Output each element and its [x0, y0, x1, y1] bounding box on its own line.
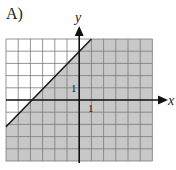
x-tick-label: 1	[88, 102, 94, 114]
x-axis-arrow-icon	[158, 96, 168, 105]
y-axis-arrow-icon	[75, 26, 84, 36]
inequality-graph: x y 1 1	[0, 0, 176, 170]
x-axis-label: x	[167, 93, 175, 108]
y-axis-label: y	[73, 10, 82, 25]
y-tick-label: 1	[71, 82, 77, 94]
